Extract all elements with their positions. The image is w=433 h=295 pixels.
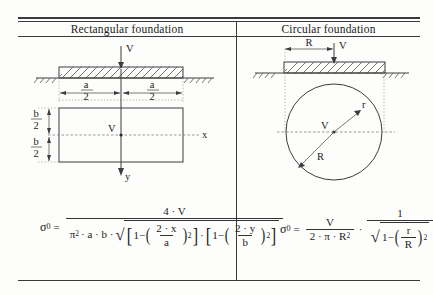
table-header-rule: [18, 36, 420, 37]
footing-slab: [284, 62, 385, 73]
label-a-half-left: a 2: [81, 79, 93, 102]
load-arrow-head: [118, 62, 124, 69]
second-fraction-denominator: √ 1 − ( r R: [367, 220, 433, 250]
ratio-denominator: R: [401, 237, 416, 250]
paren-open-x: (: [146, 223, 150, 248]
multiply-sign: ·: [357, 224, 364, 235]
bracket-group-y: [ 1 − ( 2 · y b: [205, 223, 277, 248]
radical-group: √ [ 1 − (: [115, 220, 279, 248]
svg-text:2: 2: [33, 148, 38, 159]
ratio-y-denominator: b: [238, 235, 252, 248]
first-fraction: V 2 · π · R2: [306, 217, 354, 242]
slab-hatching: [285, 62, 385, 73]
circular-formula: σ0 = V 2 · π · R2 · 1 √: [280, 208, 433, 250]
denominator-text: 2 · π · R: [310, 231, 347, 242]
bracket-group-x: [ 1 − ( 2 · x a: [126, 223, 198, 248]
first-fraction-numerator: V: [322, 217, 338, 229]
ratio-numerator: r: [403, 225, 415, 237]
dimension-b-half-upper: [47, 109, 51, 134]
load-label: V: [339, 40, 347, 51]
paren-group-y: ( 2 · y b ): [224, 223, 267, 248]
ratio-x-numerator: 2 · x: [152, 223, 180, 235]
label-a-half-right: a 2: [147, 79, 159, 102]
fraction-denominator: π2 · a · b · √ [ 1 −: [66, 218, 284, 248]
radius-r-line: [334, 112, 359, 132]
paren-close-x: ): [182, 223, 186, 248]
ground-hatch-right: [184, 78, 212, 83]
label-R-top: R: [305, 37, 312, 48]
rectangular-formula: σ0 = 4 · V π2 · a · b · √ [: [40, 206, 286, 248]
paren-close: ): [418, 225, 422, 250]
bracket-close-y: ]: [271, 223, 276, 248]
equals-sign: =: [53, 222, 59, 233]
first-fraction-denominator: 2 · π · R2: [306, 229, 354, 242]
svg-text:b: b: [33, 136, 38, 147]
bracket-open-y: [: [206, 223, 211, 248]
axis-y-arrow: [118, 168, 124, 176]
radical-group: √ 1 − ( r R: [371, 222, 429, 250]
second-fraction: 1 √ 1 − ( r R: [367, 208, 433, 250]
ratio-x-denominator: a: [160, 235, 173, 248]
dimension-b-half-lower: [47, 137, 51, 161]
denominator-exponent: 2: [346, 232, 350, 240]
table-top-rule-outer: [18, 17, 420, 19]
column-header-circular: Circular foundation: [237, 22, 420, 36]
power-y: 2: [266, 232, 270, 240]
axis-y-label: y: [125, 171, 131, 182]
multiply-between-brackets: ·: [198, 230, 205, 241]
axis-x-label: x: [202, 129, 208, 140]
paren-group-ratio: ( r R ): [394, 225, 424, 250]
svg-text:2: 2: [33, 120, 38, 131]
ratio-y: 2 · y b: [231, 223, 259, 248]
radical-symbol: √: [115, 221, 124, 249]
svg-text:a: a: [84, 79, 89, 90]
ratio-y-numerator: 2 · y: [231, 223, 259, 235]
paren-close-y: ): [261, 223, 265, 248]
column-header-rectangular: Rectangular foundation: [18, 22, 236, 36]
ratio-x: 2 · x a: [152, 223, 180, 248]
center-label: V: [321, 120, 329, 131]
equals-sign: =: [293, 224, 299, 235]
dimension-a-half-left: [60, 91, 120, 95]
svg-text:b: b: [33, 108, 38, 119]
ground-hatch-left: [253, 73, 275, 78]
center-label: V: [108, 123, 116, 134]
radical-symbol: √: [371, 223, 380, 251]
power-x: 2: [188, 232, 192, 240]
figure-root: Rectangular foundation Circular foundati…: [0, 0, 433, 295]
label-r: r: [362, 99, 366, 110]
label-b-half-lower: b 2: [31, 136, 42, 159]
paren-group-x: ( 2 · x a ): [145, 223, 188, 248]
ratio-r-over-R: r R: [401, 225, 416, 250]
table-bottom-rule: [18, 280, 420, 281]
load-label: V: [126, 43, 134, 54]
paren-open-y: (: [225, 223, 229, 248]
paren-open: (: [394, 225, 398, 250]
second-fraction-numerator: 1: [393, 208, 407, 220]
denominator-mid: · a · b ·: [79, 229, 113, 240]
svg-text:2: 2: [83, 91, 88, 102]
center-point: [119, 133, 122, 136]
sigma-subscript: 0: [286, 225, 290, 233]
bracket-open-x: [: [127, 223, 132, 248]
svg-text:a: a: [150, 79, 155, 90]
sigma-subscript: 0: [46, 223, 50, 231]
load-arrow-head: [331, 57, 337, 64]
label-b-half-upper: b 2: [31, 108, 42, 131]
ground-hatch-left: [34, 78, 56, 83]
svg-text:2: 2: [149, 91, 154, 102]
label-R-radius: R: [317, 151, 324, 162]
bracket-close-x: ]: [192, 223, 197, 248]
main-fraction: 4 · V π2 · a · b · √ [: [66, 206, 284, 248]
fraction-numerator: 4 · V: [159, 206, 189, 218]
ratio-power: 2: [423, 234, 427, 242]
ground-hatch-right: [383, 73, 405, 78]
